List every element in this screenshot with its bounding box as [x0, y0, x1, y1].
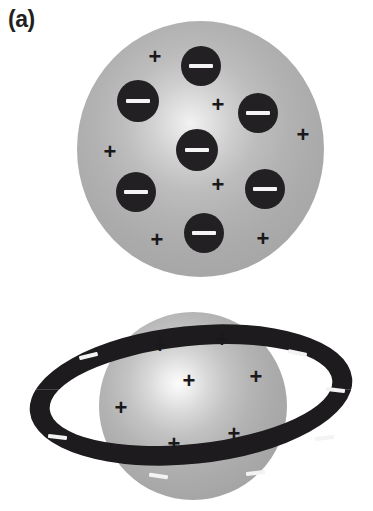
electron-bottom	[184, 213, 224, 253]
negative-charge-mark	[185, 148, 209, 153]
panel-a-label: (a)	[8, 8, 35, 31]
minus-ring-lower-right	[314, 435, 333, 441]
plus-bottom-left: +	[151, 229, 164, 251]
panel-b: (b) +++++++	[0, 278, 373, 511]
plus-lower-center: +	[168, 433, 181, 455]
plus-center: +	[183, 370, 196, 392]
electron-lower-right	[245, 169, 285, 209]
negative-charge-mark	[246, 111, 269, 115]
plus-lower-center: +	[212, 174, 225, 196]
minus-ring-right	[325, 387, 344, 393]
electron-center	[176, 129, 218, 171]
negative-charge-mark	[189, 64, 212, 68]
plus-lower-right: +	[228, 423, 241, 445]
negative-charge-mark	[192, 231, 215, 235]
minus-ring-upper-right	[287, 349, 306, 357]
negative-charge-mark	[126, 99, 150, 104]
minus-ring-left	[47, 434, 66, 440]
plus-far-right: +	[297, 124, 310, 146]
electron-upper-left	[117, 80, 159, 122]
plus-bottom-right: +	[257, 228, 270, 250]
negative-charge-mark	[124, 190, 147, 194]
electron-upper-right	[238, 93, 278, 133]
electron-top-center	[181, 46, 221, 86]
panel-a: (a) +++++++	[0, 0, 373, 278]
plus-top-left: +	[154, 335, 167, 357]
plus-top-right: +	[216, 329, 229, 351]
minus-ring-upper-left	[78, 352, 97, 360]
negative-charge-mark	[253, 187, 276, 191]
plus-mid-right: +	[250, 366, 263, 388]
plus-mid-center: +	[212, 94, 225, 116]
plus-mid-left: +	[104, 141, 117, 163]
plus-upper-left: +	[149, 46, 162, 68]
atom-models-figure: (a) +++++++ (b) +++++++	[0, 0, 373, 511]
electron-lower-left	[116, 172, 156, 212]
plus-mid-left: +	[115, 397, 128, 419]
